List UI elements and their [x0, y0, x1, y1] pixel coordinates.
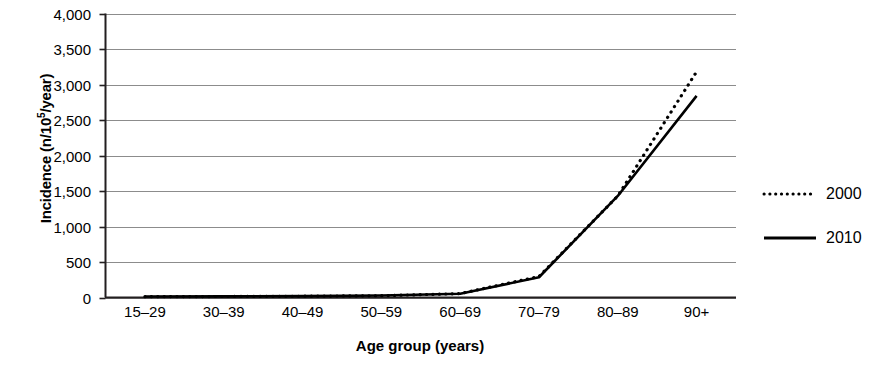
x-axis-tick-label: 15–29: [124, 304, 166, 320]
x-axis-tick-label: 40–49: [282, 304, 324, 320]
chart-figure: Incidence (n/105/year) 4,0003,5003,0002,…: [0, 0, 884, 366]
x-axis-tick-label: 50–59: [360, 304, 402, 320]
legend-label: 2000: [818, 185, 862, 203]
chart-legend: 20002010: [762, 172, 884, 260]
x-axis-tick-labels: 15–2930–3940–4950–5960–6970–7980–8990+: [0, 0, 884, 366]
x-axis-tick-label: 60–69: [439, 304, 481, 320]
x-axis-tick-label: 90+: [684, 304, 709, 320]
x-axis-tick-label: 30–39: [203, 304, 245, 320]
x-axis-tick-label: 80–89: [597, 304, 639, 320]
legend-item-2000[interactable]: 2000: [762, 172, 884, 216]
solid-line-icon: [762, 231, 818, 245]
legend-item-2010[interactable]: 2010: [762, 216, 884, 260]
x-axis-tick-label: 70–79: [518, 304, 560, 320]
x-axis-title: Age group (years): [105, 337, 735, 354]
dotted-line-icon: [762, 187, 818, 201]
legend-label: 2010: [818, 229, 862, 247]
